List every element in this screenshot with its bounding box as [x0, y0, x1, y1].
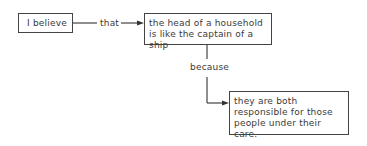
connector-label-because: because — [190, 62, 229, 73]
node-reason: they are both responsible for those peop… — [229, 91, 349, 135]
node-claim-intro: I believe — [18, 13, 73, 33]
node-claim-intro-text: I believe — [27, 18, 67, 28]
node-claim: the head of a household is like the capt… — [144, 13, 272, 45]
connector-label-that: that — [100, 18, 119, 29]
node-reason-text: they are both responsible for those peop… — [234, 96, 333, 139]
